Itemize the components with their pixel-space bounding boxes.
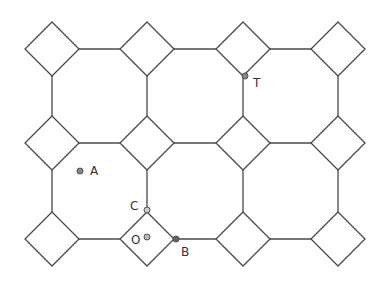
square-tile	[216, 116, 270, 170]
square-tile	[120, 22, 174, 76]
square-tile	[311, 212, 365, 266]
tiling-diagram: TACOB	[0, 0, 389, 282]
point-c	[144, 207, 150, 213]
lattice-edges	[25, 22, 365, 266]
point-t	[242, 73, 248, 79]
square-tile	[311, 116, 365, 170]
square-tile	[25, 116, 79, 170]
square-tile	[25, 212, 79, 266]
point-label-a: A	[90, 164, 99, 178]
square-tile	[216, 212, 270, 266]
point-o	[144, 234, 150, 240]
point-label-c: C	[130, 199, 138, 213]
point-label-b: B	[181, 245, 189, 259]
square-tile	[120, 116, 174, 170]
tiling-svg: TACOB	[0, 0, 389, 282]
square-tile	[216, 22, 270, 76]
point-label-t: T	[252, 76, 261, 90]
point-label-o: O	[131, 233, 140, 247]
point-a	[77, 168, 83, 174]
square-tile	[25, 22, 79, 76]
point-b	[173, 236, 179, 242]
labeled-points: TACOB	[77, 73, 261, 259]
square-tile	[311, 22, 365, 76]
